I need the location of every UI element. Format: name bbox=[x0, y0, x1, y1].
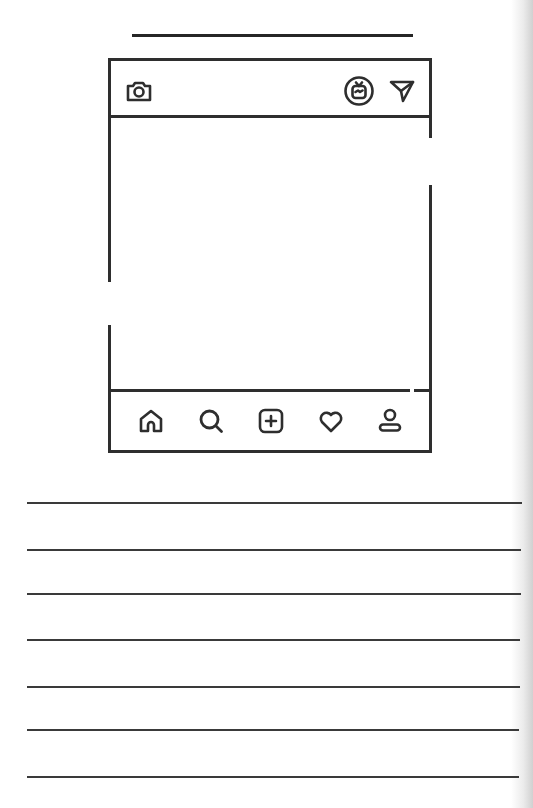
writing-line bbox=[27, 776, 519, 778]
igtv-icon bbox=[343, 75, 375, 107]
title-writing-line bbox=[132, 34, 413, 37]
writing-line bbox=[27, 729, 519, 731]
nav-separator bbox=[108, 389, 410, 392]
add-post-icon bbox=[257, 407, 285, 435]
frame-top-edge bbox=[108, 58, 432, 61]
profile-icon bbox=[376, 406, 404, 434]
send-direct-icon bbox=[388, 77, 416, 105]
heart-icon bbox=[317, 407, 345, 435]
frame-bottom-edge bbox=[108, 450, 432, 453]
post-image-area bbox=[111, 118, 429, 389]
frame-right-edge-upper bbox=[429, 58, 432, 138]
writing-line bbox=[27, 502, 522, 504]
writing-line bbox=[27, 639, 520, 641]
home-icon bbox=[137, 407, 165, 435]
writing-line bbox=[27, 686, 520, 688]
writing-line bbox=[27, 549, 521, 551]
camera-icon bbox=[125, 77, 153, 105]
writing-line bbox=[27, 593, 521, 595]
frame-right-edge-lower bbox=[429, 185, 432, 453]
search-icon bbox=[197, 407, 225, 435]
